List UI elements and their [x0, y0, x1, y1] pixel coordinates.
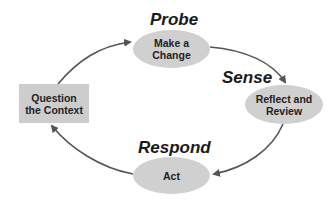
arrow-review-to-act [214, 124, 283, 174]
node-question-the-context-text: Question the Context [25, 92, 83, 116]
node-question-the-context: Question the Context [19, 84, 89, 123]
node-make-a-change: Make a Change [133, 30, 210, 68]
phase-label-respond: Respond [138, 139, 211, 156]
arrow-act-to-context [52, 126, 133, 174]
node-make-a-change-text: Make a Change [152, 37, 191, 61]
node-reflect-and-review: Reflect and Review [245, 85, 323, 124]
phase-label-sense: Sense [222, 69, 272, 86]
node-reflect-and-review-text: Reflect and Review [256, 93, 313, 117]
node-act: Act [133, 157, 210, 194]
arrow-context-to-change [58, 42, 130, 84]
phase-label-probe: Probe [150, 11, 198, 28]
node-act-text: Act [163, 170, 180, 182]
cycle-diagram: Probe Sense Respond Make a Change Reflec… [0, 0, 336, 204]
